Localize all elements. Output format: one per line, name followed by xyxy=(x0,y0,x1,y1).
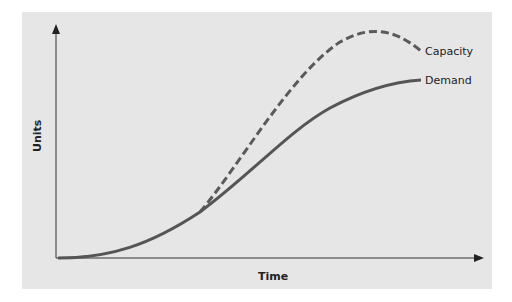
chart-svg: Capacity Demand Time Units xyxy=(0,0,512,302)
demand-line xyxy=(58,80,421,258)
demand-label: Demand xyxy=(425,74,472,87)
x-axis-arrow-icon xyxy=(474,254,484,262)
y-axis-title: Units xyxy=(31,119,44,152)
x-axis-title: Time xyxy=(258,270,288,283)
capacity-label: Capacity xyxy=(425,45,474,58)
y-axis-arrow-icon xyxy=(52,24,60,34)
